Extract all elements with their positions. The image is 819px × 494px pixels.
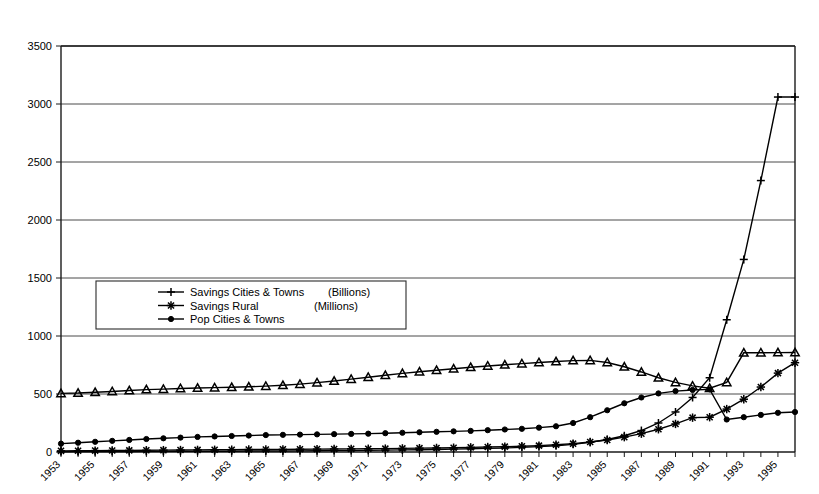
- marker-circle: [366, 431, 371, 436]
- marker-circle: [485, 428, 490, 433]
- line-chart: 0500100015002000250030003500195319551957…: [0, 0, 819, 494]
- legend-unit-label: (Millions): [314, 300, 358, 312]
- series-line: [61, 389, 795, 443]
- x-axis-tick-label: 1957: [106, 458, 131, 483]
- marker-circle: [622, 401, 627, 406]
- series-savings-rural: [57, 358, 799, 455]
- y-axis-tick-label: 0: [46, 446, 52, 458]
- marker-circle: [195, 434, 200, 439]
- x-axis-tick-label: 1971: [345, 458, 370, 483]
- marker-circle: [297, 432, 302, 437]
- marker-circle: [605, 408, 610, 413]
- x-axis-tick-label: 1973: [379, 458, 404, 483]
- series-savings-cities-towns: [57, 93, 799, 456]
- marker-circle: [400, 430, 405, 435]
- marker-circle: [536, 425, 541, 430]
- x-axis-tick-label: 1953: [37, 458, 62, 483]
- marker-circle: [168, 316, 173, 321]
- marker-circle: [775, 410, 780, 415]
- legend-label: Savings Cities & Towns: [190, 286, 305, 298]
- marker-circle: [332, 432, 337, 437]
- x-axis-tick-label: 1995: [754, 458, 779, 483]
- marker-circle: [656, 391, 661, 396]
- x-axis-tick-label: 1985: [584, 458, 609, 483]
- marker-circle: [792, 409, 797, 414]
- chart-container: 0500100015002000250030003500195319551957…: [0, 0, 819, 494]
- marker-circle: [451, 429, 456, 434]
- marker-circle: [383, 431, 388, 436]
- marker-circle: [144, 436, 149, 441]
- x-axis-tick-label: 1991: [686, 458, 711, 483]
- series-unlabeled-3: [57, 348, 799, 396]
- x-axis-tick-label: 1983: [550, 458, 575, 483]
- x-axis-tick-label: 1989: [652, 458, 677, 483]
- marker-circle: [519, 426, 524, 431]
- x-axis-tick-label: 1963: [208, 458, 233, 483]
- y-axis-tick-label: 1000: [28, 330, 52, 342]
- marker-circle: [246, 433, 251, 438]
- marker-circle: [673, 389, 678, 394]
- x-axis-tick-label: 1959: [140, 458, 165, 483]
- marker-circle: [588, 415, 593, 420]
- marker-circle: [314, 432, 319, 437]
- series-pop-cities-towns: [58, 387, 797, 446]
- x-axis-tick-label: 1979: [481, 458, 506, 483]
- marker-circle: [263, 432, 268, 437]
- y-axis-tick-label: 1500: [28, 272, 52, 284]
- marker-circle: [349, 431, 354, 436]
- marker-circle: [639, 395, 644, 400]
- marker-circle: [229, 433, 234, 438]
- marker-circle: [570, 420, 575, 425]
- x-axis-tick-label: 1987: [618, 458, 643, 483]
- marker-circle: [110, 438, 115, 443]
- marker-circle: [758, 412, 763, 417]
- marker-circle: [58, 441, 63, 446]
- marker-circle: [93, 439, 98, 444]
- y-axis-tick-label: 2000: [28, 214, 52, 226]
- x-axis-tick-label: 1993: [720, 458, 745, 483]
- legend-label: Pop Cities & Towns: [190, 313, 285, 325]
- legend-unit-label: (Billions): [328, 286, 370, 298]
- marker-circle: [280, 432, 285, 437]
- x-axis-tick-label: 1975: [413, 458, 438, 483]
- marker-circle: [161, 436, 166, 441]
- y-axis-tick-label: 3000: [28, 98, 52, 110]
- marker-circle: [741, 415, 746, 420]
- x-axis-tick-label: 1955: [72, 458, 97, 483]
- y-axis-tick-label: 3500: [28, 40, 52, 52]
- x-axis-ticks: 1953195519571959196119631965196719691971…: [37, 452, 795, 483]
- marker-circle: [468, 428, 473, 433]
- x-axis-tick-label: 1969: [311, 458, 336, 483]
- x-axis-tick-label: 1977: [447, 458, 472, 483]
- x-axis-tick-label: 1967: [276, 458, 301, 483]
- y-axis-tick-label: 500: [34, 388, 52, 400]
- marker-circle: [75, 440, 80, 445]
- marker-circle: [690, 387, 695, 392]
- marker-circle: [212, 434, 217, 439]
- series-line: [61, 97, 795, 452]
- chart-legend: Savings Cities & Towns(Billions)Savings …: [96, 281, 406, 329]
- y-gridlines: 0500100015002000250030003500: [28, 40, 795, 458]
- marker-circle: [502, 427, 507, 432]
- series-line: [61, 352, 795, 393]
- marker-circle: [724, 417, 729, 422]
- marker-circle: [434, 429, 439, 434]
- y-axis-tick-label: 2500: [28, 156, 52, 168]
- marker-circle: [127, 437, 132, 442]
- legend-label: Savings Rural: [190, 300, 258, 312]
- marker-circle: [417, 430, 422, 435]
- marker-circle: [178, 435, 183, 440]
- marker-circle: [553, 424, 558, 429]
- x-axis-tick-label: 1965: [242, 458, 267, 483]
- x-axis-tick-label: 1981: [515, 458, 540, 483]
- x-axis-tick-label: 1961: [174, 458, 199, 483]
